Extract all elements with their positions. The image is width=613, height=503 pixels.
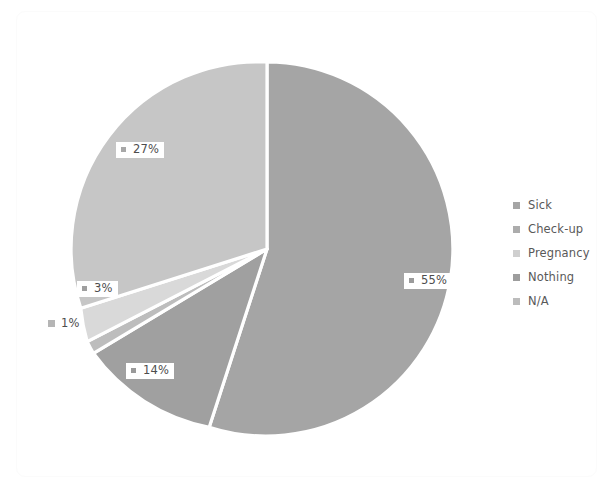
data-label-text-pregnancy: 3% [94, 283, 113, 295]
legend-marker-sick [513, 202, 520, 209]
legend-marker-na [513, 298, 520, 305]
data-label-text-checkup: 27% [133, 144, 159, 156]
data-label-pregnancy: 3% [77, 281, 118, 297]
data-label-nothing: 1% [48, 316, 80, 332]
legend-item-na[interactable]: N/A [513, 296, 590, 308]
data-label-marker-checkup [120, 146, 127, 153]
legend-item-check-up[interactable]: Check-up [513, 224, 590, 236]
legend-label-na: N/A [528, 296, 549, 308]
data-label-sick: 55% [404, 273, 452, 289]
legend-label-nothing: Nothing [528, 272, 574, 284]
legend-label-check-up: Check-up [528, 224, 583, 236]
data-label-marker-pregnancy [81, 285, 88, 292]
data-label-marker-sick [408, 277, 415, 284]
chart-legend: Sick Check-up Pregnancy Nothing N/A [513, 200, 590, 308]
legend-label-sick: Sick [528, 200, 552, 212]
legend-item-nothing[interactable]: Nothing [513, 272, 590, 284]
data-label-na: 14% [126, 363, 174, 379]
legend-marker-nothing [513, 274, 520, 281]
legend-item-pregnancy[interactable]: Pregnancy [513, 248, 590, 260]
data-label-text-na: 14% [143, 365, 169, 377]
data-label-text-sick: 55% [421, 275, 447, 287]
data-label-marker-nothing [48, 320, 55, 327]
data-label-marker-na [130, 367, 137, 374]
legend-item-sick[interactable]: Sick [513, 200, 590, 212]
legend-label-pregnancy: Pregnancy [528, 248, 590, 260]
data-label-text-nothing: 1% [61, 318, 80, 330]
legend-marker-pregnancy [513, 250, 520, 257]
data-label-checkup: 27% [116, 142, 164, 158]
legend-marker-check-up [513, 226, 520, 233]
